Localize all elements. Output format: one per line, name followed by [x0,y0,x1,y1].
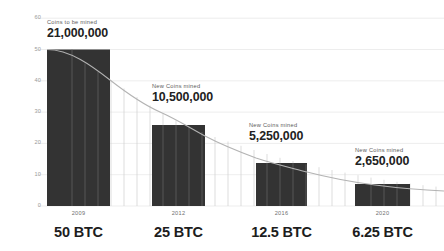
reward-label-2020: 6.25 BTC [352,224,412,240]
y-tick-10: 10 [19,172,41,178]
annotation-caption: Coins to be mined [47,19,108,25]
annotation-2012: New Coins mined 10,500,000 [152,83,213,104]
y-tick-20: 20 [19,141,41,147]
annotation-2009: Coins to be mined 21,000,000 [47,19,108,40]
bar-inner-lines [72,50,397,207]
x-label-2020: 2020 [376,210,390,216]
reward-label-2009: 50 BTC [54,224,103,240]
annotation-2016: New Coins mined 5,250,000 [249,122,303,143]
reward-label-2016: 12.5 BTC [251,224,311,240]
annotation-value: 2,650,000 [355,155,409,168]
bar-2020 [355,184,410,206]
annotation-value: 10,500,000 [152,91,213,104]
annotation-caption: New Coins mined [249,122,303,128]
annotation-value: 5,250,000 [249,130,303,143]
bar-2012 [152,125,205,206]
x-label-2012: 2012 [172,210,186,216]
bar-2016 [256,163,307,206]
y-tick-60: 60 [19,15,41,21]
x-label-2016: 2016 [275,210,289,216]
y-tick-0: 0 [19,203,41,209]
annotation-caption: New Coins mined [152,83,213,89]
annotation-2020: New Coins mined 2,650,000 [355,147,409,168]
y-axis: 60 50 40 30 20 10 0 [0,0,41,251]
y-tick-30: 30 [19,109,41,115]
y-tick-50: 50 [19,47,41,53]
bitcoin-halving-chart: 60 50 40 30 20 10 0 Coins to be mined 21… [0,0,444,251]
x-label-2009: 2009 [72,210,86,216]
annotation-value: 21,000,000 [47,27,108,40]
decay-drop-lines [59,50,436,207]
annotation-caption: New Coins mined [355,147,409,153]
reward-label-2012: 25 BTC [154,224,203,240]
y-tick-40: 40 [19,78,41,84]
